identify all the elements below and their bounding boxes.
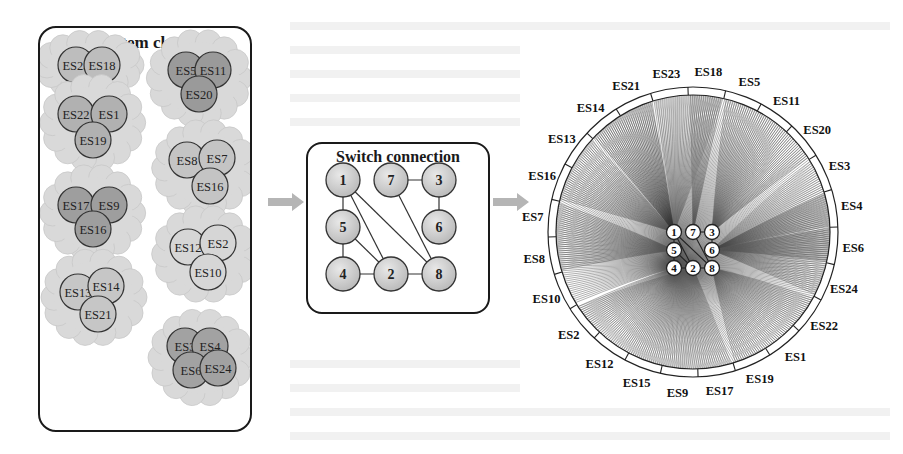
- end-system-label: ES15: [623, 376, 651, 390]
- switch-label: 3: [709, 226, 715, 238]
- end-system-label: ES19: [746, 372, 774, 386]
- ring-segment-divider: [826, 263, 834, 265]
- end-system-label: ES17: [706, 384, 734, 398]
- circular-connection-diagram: ES18ES5ES11ES20ES3ES4ES6ES24ES22ES1ES19E…: [0, 0, 903, 454]
- end-system-label: ES21: [612, 79, 640, 93]
- end-system-label: ES24: [830, 282, 859, 296]
- switch-node: 5: [667, 243, 682, 258]
- switch-label: 1: [671, 226, 677, 238]
- switch-node: 6: [705, 243, 720, 258]
- ring-segment-divider: [565, 164, 572, 168]
- end-system-label: ES12: [586, 357, 614, 371]
- switch-node: 1: [667, 225, 682, 240]
- switch-label: 6: [709, 244, 715, 256]
- ring-segment-divider: [660, 365, 662, 373]
- switch-label: 2: [690, 262, 696, 274]
- switch-label: 7: [690, 226, 696, 238]
- end-system-label: ES23: [653, 67, 681, 81]
- ring-segment-divider: [809, 155, 816, 159]
- end-system-label: ES14: [577, 101, 606, 115]
- switch-label: 8: [709, 262, 715, 274]
- end-system-label: ES10: [533, 292, 561, 306]
- end-system-label: ES1: [785, 350, 807, 364]
- ring-segment-divider: [552, 199, 560, 201]
- ring-segment-divider: [554, 272, 562, 274]
- end-system-label: ES3: [829, 159, 851, 173]
- ring-segment-divider: [651, 93, 653, 101]
- ring-segment-divider: [724, 91, 726, 99]
- switch-node: 4: [667, 261, 682, 276]
- end-system-label: ES8: [523, 252, 545, 266]
- switch-node: 2: [686, 261, 701, 276]
- figure: End system clustering ES23ES18ES5ES11ES2…: [0, 0, 903, 454]
- switch-label: 5: [671, 244, 677, 256]
- end-system-label: ES4: [841, 199, 863, 213]
- end-system-label: ES6: [842, 241, 864, 255]
- switch-node: 8: [705, 261, 720, 276]
- switch-node: 3: [705, 225, 720, 240]
- end-system-label: ES5: [739, 75, 761, 89]
- ring-segment-divider: [786, 126, 791, 132]
- ring-segment-divider: [594, 332, 599, 338]
- end-system-label: ES22: [810, 319, 838, 333]
- ring-segment-divider: [733, 363, 735, 371]
- switch-label: 4: [671, 262, 677, 274]
- ring-segment-divider: [570, 305, 577, 309]
- end-system-label: ES11: [773, 94, 800, 108]
- ring-segment-divider: [824, 190, 832, 192]
- ring-segment-divider: [616, 109, 620, 116]
- ring-segment-divider: [587, 133, 593, 138]
- center-switch-graph: 17356428: [667, 225, 720, 276]
- ring-segment-divider: [814, 296, 821, 300]
- end-system-label: ES16: [528, 169, 556, 183]
- end-system-label: ES2: [558, 328, 580, 342]
- end-system-label: ES9: [667, 386, 689, 400]
- end-system-label: ES18: [695, 65, 723, 79]
- ring-segment-divider: [793, 325, 799, 330]
- ring-segment-divider: [766, 348, 770, 355]
- end-system-label: ES7: [522, 210, 544, 224]
- ring-segment-divider: [757, 104, 761, 111]
- end-system-label: ES13: [548, 132, 576, 146]
- switch-node: 7: [686, 225, 701, 240]
- end-system-label: ES20: [803, 123, 831, 137]
- ring-segment-divider: [625, 353, 629, 360]
